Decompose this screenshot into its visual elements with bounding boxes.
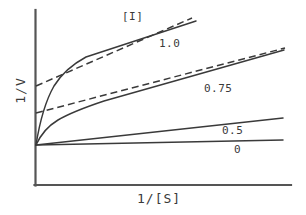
series-label-0-5: 0.5 — [222, 125, 243, 136]
legend-group-label: [I] — [122, 11, 143, 22]
x-axis-label: 1/[S] — [137, 192, 181, 205]
asymptote-0-75-line — [36, 48, 285, 113]
series-label-1-0: 1.0 — [159, 38, 180, 49]
plot-canvas — [0, 0, 306, 215]
series-label-0-75: 0.75 — [204, 83, 233, 94]
asymptote-1-0-line — [36, 18, 192, 86]
lineweaver-burk-figure: [I] 1.0 0.75 0.5 0 1/[S] 1/V — [0, 0, 306, 215]
series-label-0: 0 — [234, 144, 241, 155]
y-axis-label: 1/V — [14, 66, 27, 116]
